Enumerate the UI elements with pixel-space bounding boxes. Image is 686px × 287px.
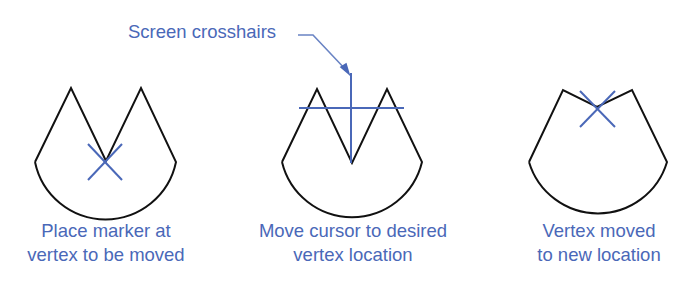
crosshairs-icon	[299, 73, 404, 163]
panel-2-caption-line-1: Move cursor to desired	[238, 219, 468, 243]
panel-3-caption-line-1: Vertex moved	[524, 219, 674, 243]
callout-label: Screen crosshairs	[128, 21, 276, 43]
panel-3-caption: Vertex moved to new location	[524, 219, 674, 267]
panel-1-caption: Place marker at vertex to be moved	[0, 219, 212, 267]
vertex-marker-x-icon	[88, 144, 122, 180]
panel-1-caption-line-1: Place marker at	[0, 219, 212, 243]
moved-vertex-marker-x-icon	[580, 91, 615, 127]
panel-2-caption-line-2: vertex location	[238, 243, 468, 267]
panel-1-caption-line-2: vertex to be moved	[0, 243, 212, 267]
shape-before	[35, 88, 176, 219]
panel-3-caption-line-2: to new location	[524, 243, 674, 267]
panel-2-caption: Move cursor to desired vertex location	[238, 219, 468, 267]
callout-arrow-icon	[298, 35, 349, 74]
